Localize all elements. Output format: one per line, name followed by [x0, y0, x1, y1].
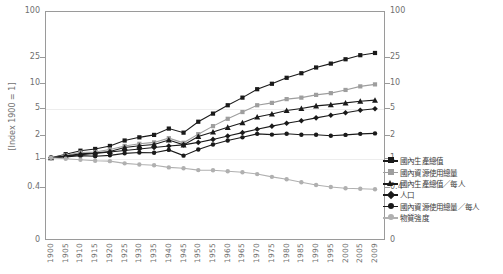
data-point-marker: [270, 175, 274, 179]
legend-label: 國內資源使用總量／每人: [398, 201, 479, 212]
x-axis-tick: 1975: [268, 243, 276, 263]
data-point-marker: [254, 126, 260, 132]
data-point-marker: [285, 97, 289, 101]
data-point-marker: [255, 87, 259, 91]
y-axis-tick-left: 25: [14, 53, 40, 61]
data-point-marker: [343, 133, 347, 137]
series-5: [49, 131, 377, 160]
data-point-marker: [255, 172, 259, 176]
data-point-marker: [122, 151, 126, 155]
data-point-marker: [255, 132, 259, 136]
y-axis-tick-left: 10: [14, 79, 40, 87]
data-point-marker: [270, 101, 274, 105]
data-point-marker: [225, 133, 231, 139]
data-point-marker: [270, 132, 274, 136]
data-point-marker: [181, 153, 185, 157]
data-point-marker: [137, 135, 141, 139]
data-point-marker: [270, 82, 274, 86]
data-point-marker: [314, 65, 318, 69]
legend-marker-diamond-icon: [383, 189, 398, 200]
data-point-marker: [195, 140, 201, 146]
data-point-marker: [357, 107, 363, 113]
data-point-marker: [358, 132, 362, 136]
legend-marker-circle-icon: [383, 212, 398, 223]
data-point-marker: [226, 117, 230, 121]
x-axis-tick: 1940: [165, 243, 173, 263]
data-point-marker: [299, 71, 303, 75]
data-point-marker: [226, 169, 230, 173]
data-point-marker: [167, 148, 171, 152]
y-axis-tick-right: 25: [390, 53, 416, 61]
data-point-marker: [196, 120, 200, 124]
x-axis-tick: 1910: [76, 243, 84, 263]
y-tick-mark-right: [385, 135, 390, 136]
data-point-marker: [196, 168, 200, 172]
data-point-marker: [210, 137, 216, 143]
data-point-marker: [314, 183, 318, 187]
data-point-marker: [152, 133, 156, 137]
data-point-marker: [137, 162, 141, 166]
data-point-marker: [240, 130, 246, 136]
y-axis-tick-right: 2: [390, 131, 416, 139]
data-point-marker: [255, 103, 259, 107]
data-point-marker: [152, 151, 156, 155]
data-point-marker: [299, 118, 305, 124]
x-axis-tick: 1985: [297, 243, 305, 263]
data-point-marker: [167, 165, 171, 169]
data-point-marker: [240, 110, 244, 114]
legend-label: 人口: [398, 189, 414, 200]
data-point-marker: [181, 166, 185, 170]
legend-item-2[interactable]: 國內資源使用總量: [383, 166, 479, 177]
data-point-marker: [108, 159, 112, 163]
data-point-marker: [211, 142, 215, 146]
legend-item-6[interactable]: 物質強度: [383, 212, 479, 223]
data-point-marker: [313, 115, 319, 121]
data-point-marker: [343, 57, 347, 61]
x-axis-tick: 1980: [283, 243, 291, 263]
data-point-marker: [284, 131, 288, 135]
legend-item-4[interactable]: 人口: [383, 189, 479, 200]
y-tick-mark-right: [385, 57, 390, 58]
data-point-marker: [64, 157, 68, 161]
x-axis-tick: 1990: [312, 243, 320, 263]
data-point-marker: [299, 133, 303, 137]
x-axis-tick: 1925: [121, 243, 129, 263]
x-axis-tick: 1905: [62, 243, 70, 263]
x-axis-tick: 1955: [209, 243, 217, 263]
y-tick-mark-right: [385, 83, 390, 84]
data-point-marker: [240, 135, 244, 139]
x-axis-tick: 1930: [135, 243, 143, 263]
y-axis-tick-right: 0: [390, 236, 416, 244]
data-point-marker: [211, 168, 215, 172]
data-point-marker: [196, 147, 200, 151]
data-point-marker: [226, 103, 230, 107]
data-point-marker: [152, 163, 156, 167]
x-axis-tick: 1945: [180, 243, 188, 263]
y-axis-tick-left: 2: [14, 131, 40, 139]
series-layer: [45, 11, 385, 240]
data-point-marker: [343, 88, 347, 92]
data-point-marker: [108, 153, 112, 157]
y-tick-mark-right: [385, 108, 390, 109]
legend-item-5[interactable]: 國內資源使用總量／每人: [383, 201, 479, 212]
data-point-marker: [329, 62, 333, 66]
series-6: [49, 156, 377, 192]
y-axis-tick-right: 100: [390, 7, 416, 15]
legend-item-1[interactable]: 國內生產總值: [383, 155, 479, 166]
legend-item-3[interactable]: 國內生產總值／每人: [383, 178, 479, 189]
x-axis-tick: 2005: [356, 243, 364, 263]
data-point-marker: [329, 133, 333, 137]
data-point-marker: [373, 131, 377, 135]
y-axis-label: [Index 1900 = 1]: [8, 77, 17, 157]
x-axis-tick: 1965: [238, 243, 246, 263]
legend-marker-triangle-icon: [383, 178, 398, 189]
data-point-marker: [284, 121, 290, 127]
data-point-marker: [373, 51, 377, 55]
x-axis-tick: 1950: [194, 243, 202, 263]
data-point-marker: [240, 96, 244, 100]
chart-root: 1900-2009年 [Index 1900 = 1] 100100252510…: [0, 0, 503, 274]
y-axis-tick-left: 1: [14, 154, 40, 162]
data-point-marker: [284, 177, 288, 181]
data-point-marker: [167, 126, 171, 130]
legend-marker-circle-icon: [383, 201, 398, 212]
